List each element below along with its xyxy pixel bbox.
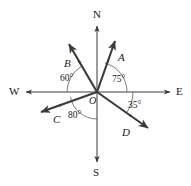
angle-label-35: 35° [128, 101, 141, 111]
ray-label-D: D [122, 127, 130, 138]
angle-label-60: 60° [60, 74, 73, 84]
compass-label-west: W [9, 86, 19, 97]
compass-axes [26, 26, 170, 162]
compass-diagram-svg [0, 0, 191, 186]
ray-label-A: A [118, 52, 125, 63]
compass-label-south: S [93, 167, 99, 178]
ray-C-midarrow [59, 102, 69, 106]
ray-D-midarrow [122, 110, 131, 116]
ray-B-midarrow [79, 61, 84, 70]
ray-label-B: B [64, 58, 71, 69]
angle-label-80: 80° [68, 111, 81, 121]
ray-label-C: C [53, 114, 60, 125]
origin-label: O [89, 96, 96, 106]
figure-canvas: N S E W A B C D O 75° 60° 80° 35° [0, 0, 191, 186]
compass-label-east: E [176, 86, 183, 97]
angle-label-75: 75° [112, 75, 125, 85]
compass-label-north: N [93, 9, 101, 20]
